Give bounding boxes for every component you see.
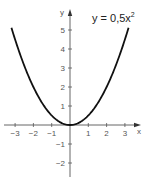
y-tick-label: 2: [61, 83, 66, 92]
y-axis-arrow-icon: [68, 9, 72, 16]
y-tick-label: 4: [61, 45, 66, 54]
parabola-chart: xy−3−2−1123−2−112345 y = 0,5x2: [0, 0, 145, 177]
x-tick-label: −2: [29, 129, 39, 138]
x-tick-label: −1: [47, 129, 57, 138]
equation-label: y = 0,5x2: [92, 11, 135, 24]
x-tick-label: 2: [104, 129, 109, 138]
x-axis-label: x: [137, 127, 141, 136]
equation-exponent: 2: [131, 11, 135, 18]
x-tick-label: 1: [86, 129, 91, 138]
y-tick-label: 1: [61, 102, 66, 111]
y-tick-label: 3: [61, 64, 66, 73]
y-tick-label: 5: [61, 26, 66, 35]
y-axis-label: y: [60, 8, 64, 17]
y-tick-label: −2: [56, 159, 66, 168]
axes: xy−3−2−1123−2−112345: [4, 8, 141, 177]
y-tick-label: −1: [56, 140, 66, 149]
x-tick-label: 3: [123, 129, 128, 138]
x-tick-label: −3: [11, 129, 21, 138]
